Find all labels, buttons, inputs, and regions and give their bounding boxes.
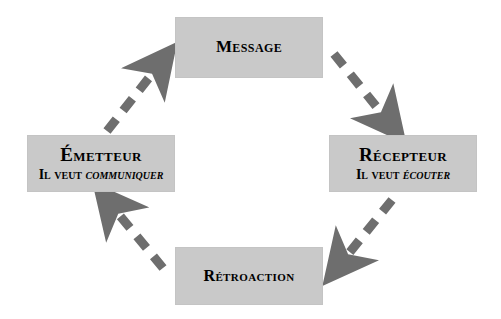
arrow-recepteur-to-retroaction	[337, 200, 392, 268]
node-emetteur-subtitle-emphasis: communiquer	[86, 167, 164, 182]
node-retroaction: Rétroaction	[175, 247, 323, 305]
node-emetteur-subtitle: Il veut communiquer	[39, 167, 164, 182]
node-message: Message	[175, 17, 323, 78]
node-recepteur-subtitle-text: Il veut	[356, 167, 403, 182]
node-emetteur-subtitle-text: Il veut	[39, 167, 86, 182]
node-recepteur-subtitle: Il veut écouter	[356, 167, 450, 182]
node-retroaction-title: Rétroaction	[203, 267, 294, 284]
node-recepteur-title: Récepteur	[359, 145, 447, 166]
arrow-emetteur-to-message	[107, 60, 163, 131]
arrow-message-to-recepteur	[334, 54, 392, 126]
node-recepteur: Récepteur Il veut écouter	[329, 135, 477, 192]
node-emetteur-title: Émetteur	[60, 145, 142, 166]
node-recepteur-subtitle-emphasis: écouter	[403, 167, 450, 182]
communication-cycle-diagram: Message Émetteur Il veut communiquer Réc…	[0, 0, 501, 319]
node-message-title: Message	[216, 38, 282, 56]
node-emetteur: Émetteur Il veut communiquer	[27, 135, 175, 192]
arrow-retroaction-to-emetteur	[107, 200, 163, 268]
